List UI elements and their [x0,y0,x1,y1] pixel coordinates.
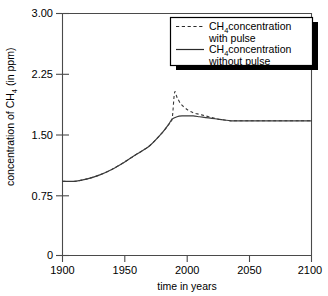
y-axis-title-prefix: concentration of CH [4,93,16,186]
x-tick-label-2100: 2100 [298,264,322,276]
x-tick-label-1900: 1900 [50,264,74,276]
series-line-with-pulse [63,92,312,182]
ch4-concentration-line-chart: 3.00 2.25 1.50 0.75 0 1900 1950 2000 205… [0,0,328,296]
x-axis-tick-labels: 1900 1950 2000 2050 2100 [50,264,322,276]
x-tick-label-1950: 1950 [113,264,137,276]
chart-legend[interactable]: CH4concentration with pulse CH4concentra… [171,18,319,71]
y-tick-label-1.50: 1.50 [32,129,53,141]
svg-text:concentration of CH4 (in ppm): concentration of CH4 (in ppm) [4,48,19,186]
y-axis-ticks [63,14,70,256]
y-axis-title-suffix: (in ppm) [4,48,16,89]
series-group [63,92,312,182]
legend-label-without-pulse-line2: without pulse [208,55,270,67]
y-tick-label-0: 0 [47,249,53,261]
legend-label-with-pulse-line2: with pulse [208,32,256,44]
chart-figure: 3.00 2.25 1.50 0.75 0 1900 1950 2000 205… [0,0,328,296]
y-tick-label-3.00: 3.00 [32,7,53,19]
x-axis-ticks [63,256,312,263]
x-axis-title: time in years [157,280,217,292]
series-line-without-pulse [63,116,312,182]
y-tick-label-0.75: 0.75 [32,190,53,202]
x-tick-label-2050: 2050 [237,264,261,276]
y-tick-label-2.25: 2.25 [32,68,53,80]
x-tick-label-2000: 2000 [175,264,199,276]
y-axis-title: concentration of CH4 (in ppm) [4,48,19,186]
y-axis-tick-stubs [56,14,63,256]
y-axis-tick-labels: 3.00 2.25 1.50 0.75 0 [32,7,53,261]
